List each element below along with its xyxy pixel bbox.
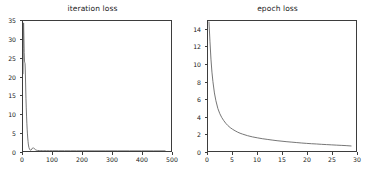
y-tick-mark	[205, 99, 208, 100]
x-tick-mark	[257, 152, 258, 155]
y-tick-label: 10	[185, 61, 201, 68]
y-tick-label: 5	[0, 130, 16, 137]
x-tick-label: 0	[205, 156, 209, 163]
y-tick-label: 35	[0, 17, 16, 24]
y-tick-label: 0	[0, 149, 16, 156]
subplot-epoch-loss: epoch loss 02468101214051015202530	[185, 0, 370, 183]
chart-title-epoch-loss: epoch loss	[185, 4, 370, 13]
y-tick-label: 8	[185, 78, 201, 85]
y-tick-label: 25	[0, 54, 16, 61]
data-line	[209, 22, 351, 146]
y-tick-label: 14	[185, 25, 201, 32]
y-tick-mark	[205, 64, 208, 65]
y-tick-label: 15	[0, 92, 16, 99]
subplot-iteration-loss: iteration loss 0510152025303501002003004…	[0, 0, 185, 183]
y-tick-label: 10	[0, 111, 16, 118]
plot-area-epoch-loss	[207, 20, 357, 152]
x-tick-mark	[22, 152, 23, 155]
y-tick-label: 20	[0, 73, 16, 80]
x-tick-label: 400	[136, 156, 148, 163]
x-tick-label: 0	[20, 156, 24, 163]
line-plot-iteration-loss	[23, 21, 171, 151]
y-tick-mark	[20, 77, 23, 78]
x-tick-label: 30	[353, 156, 361, 163]
y-tick-mark	[205, 29, 208, 30]
y-tick-mark	[20, 95, 23, 96]
x-tick-mark	[207, 152, 208, 155]
y-tick-mark	[205, 46, 208, 47]
y-tick-label: 12	[185, 43, 201, 50]
line-plot-epoch-loss	[208, 21, 356, 151]
x-tick-mark	[232, 152, 233, 155]
y-tick-mark	[205, 134, 208, 135]
x-tick-label: 15	[278, 156, 286, 163]
y-tick-label: 6	[185, 96, 201, 103]
x-tick-label: 25	[328, 156, 336, 163]
x-tick-label: 20	[303, 156, 311, 163]
x-tick-mark	[82, 152, 83, 155]
plot-area-iteration-loss	[22, 20, 172, 152]
x-tick-mark	[112, 152, 113, 155]
x-tick-mark	[332, 152, 333, 155]
x-tick-mark	[142, 152, 143, 155]
x-tick-mark	[307, 152, 308, 155]
y-tick-label: 2	[185, 131, 201, 138]
x-tick-label: 500	[166, 156, 178, 163]
data-line	[23, 23, 165, 151]
figure-canvas: iteration loss 0510152025303501002003004…	[0, 0, 370, 183]
x-tick-mark	[52, 152, 53, 155]
x-tick-label: 5	[230, 156, 234, 163]
x-tick-mark	[357, 152, 358, 155]
y-tick-label: 4	[185, 113, 201, 120]
chart-title-iteration-loss: iteration loss	[0, 4, 185, 13]
x-tick-mark	[172, 152, 173, 155]
y-tick-label: 30	[0, 35, 16, 42]
y-tick-mark	[205, 82, 208, 83]
y-tick-mark	[20, 133, 23, 134]
y-tick-mark	[20, 114, 23, 115]
x-tick-label: 300	[106, 156, 118, 163]
y-tick-mark	[205, 117, 208, 118]
y-tick-mark	[20, 58, 23, 59]
x-tick-mark	[282, 152, 283, 155]
x-tick-label: 200	[76, 156, 88, 163]
x-tick-label: 100	[46, 156, 58, 163]
x-tick-label: 10	[253, 156, 261, 163]
y-tick-mark	[20, 20, 23, 21]
y-tick-label: 0	[185, 149, 201, 156]
y-tick-mark	[20, 39, 23, 40]
